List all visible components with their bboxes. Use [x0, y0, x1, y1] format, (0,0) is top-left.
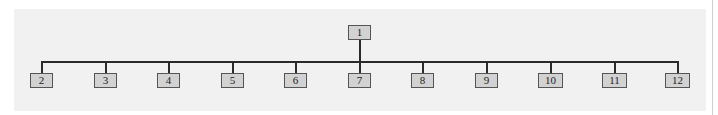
child-node: 7: [348, 73, 371, 88]
child-connector: [550, 61, 552, 73]
child-node: 6: [284, 73, 307, 88]
child-node: 5: [221, 73, 244, 88]
child-node: 10: [538, 73, 563, 88]
child-connector: [359, 61, 361, 73]
child-node: 12: [665, 73, 690, 88]
child-connector: [422, 61, 424, 73]
child-connector: [614, 61, 616, 73]
child-node: 3: [94, 73, 117, 88]
child-node: 11: [602, 73, 627, 88]
child-connector: [295, 61, 297, 73]
child-connector: [677, 61, 679, 73]
child-connector: [486, 61, 488, 73]
root-node: 1: [348, 25, 371, 40]
child-node: 2: [30, 73, 53, 88]
child-connector: [41, 61, 43, 73]
child-node: 4: [157, 73, 180, 88]
right-border-line: [712, 0, 713, 115]
child-node: 9: [475, 73, 498, 88]
child-connector: [232, 61, 234, 73]
child-connector: [105, 61, 107, 73]
child-connector: [168, 61, 170, 73]
child-node: 8: [411, 73, 434, 88]
